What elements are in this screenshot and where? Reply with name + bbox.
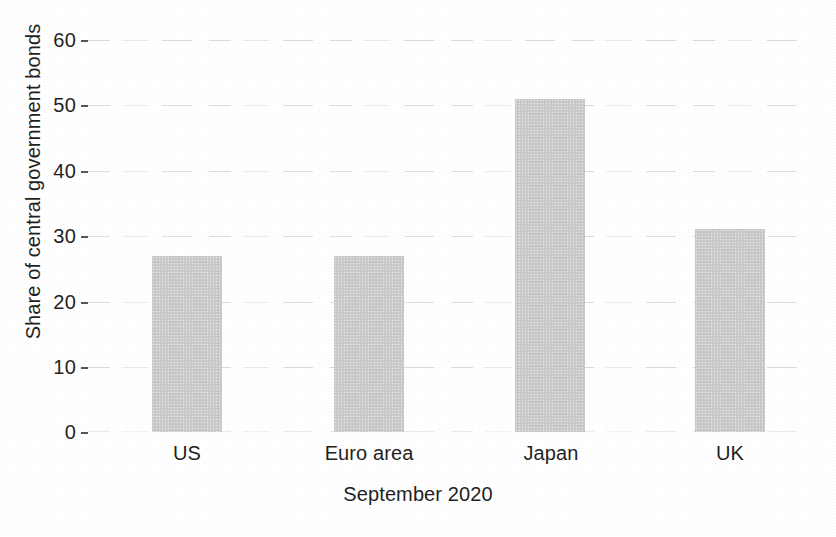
bar-uk <box>695 229 765 432</box>
y-tick-label-40: 40 <box>36 161 76 181</box>
y-tick-mark-40 <box>81 171 88 173</box>
y-tick-mark-30 <box>81 236 88 238</box>
y-tick-label-10: 10 <box>36 357 76 377</box>
y-tick-mark-60 <box>81 40 88 42</box>
bars-layer <box>88 40 812 432</box>
x-tick-label-japan: Japan <box>496 443 606 463</box>
y-tick-label-50: 50 <box>36 95 76 115</box>
bar-us <box>152 256 222 432</box>
y-tick-mark-20 <box>81 302 88 304</box>
bar-japan <box>515 99 585 432</box>
plot-area <box>88 40 812 432</box>
y-tick-mark-10 <box>81 367 88 369</box>
bar-chart-figure: Share of central government bonds 60 50 … <box>0 0 836 537</box>
x-axis-title: September 2020 <box>0 483 836 506</box>
y-tick-label-20: 20 <box>36 292 76 312</box>
x-tick-label-uk: UK <box>695 443 765 463</box>
y-tick-mark-50 <box>81 105 88 107</box>
bar-euro-area <box>334 256 404 432</box>
x-tick-label-euro-area: Euro area <box>304 443 434 463</box>
y-tick-label-30: 30 <box>36 226 76 246</box>
y-tick-label-60: 60 <box>36 30 76 50</box>
y-tick-label-0: 0 <box>36 422 76 442</box>
y-tick-mark-0 <box>81 432 88 434</box>
x-tick-label-us: US <box>152 443 222 463</box>
y-axis-tick-labels: 60 50 40 30 20 10 0 <box>28 0 76 537</box>
